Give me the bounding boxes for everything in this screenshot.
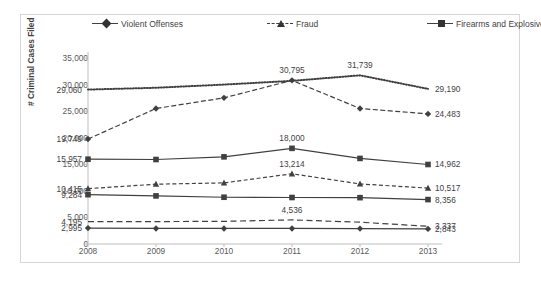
data-point-square (425, 197, 431, 203)
data-point-square (289, 195, 295, 201)
data-point-diamond (85, 225, 91, 231)
data-label: 29,190 (435, 84, 460, 94)
data-point-diamond (357, 105, 363, 111)
data-point-diamond (85, 136, 91, 142)
data-point-square (153, 157, 159, 163)
data-point-square (153, 193, 159, 199)
data-point-diamond (357, 225, 363, 231)
data-point-square (85, 192, 91, 198)
data-point-diamond (221, 95, 227, 101)
data-label: 19,749 (57, 134, 82, 144)
data-label: 4,195 (61, 217, 82, 227)
data-point-square (221, 154, 227, 160)
series-line-property-offenses (88, 148, 428, 164)
data-point-diamond (425, 111, 431, 117)
data-point-square (289, 146, 295, 152)
data-label: 18,000 (279, 133, 304, 143)
data-label: 30,795 (279, 65, 304, 75)
data-label: 8,356 (435, 195, 456, 205)
data-label: 3,337 (435, 221, 456, 231)
data-point-triangle (289, 170, 295, 176)
data-point-square (357, 195, 363, 201)
data-label: 31,739 (347, 60, 372, 70)
data-label: 4,536 (282, 205, 303, 215)
data-label: 24,483 (435, 109, 460, 119)
data-point-diamond (289, 225, 295, 231)
series-line-drug-offenses (88, 75, 428, 89)
series-line-immigration-offenses-lower- (88, 220, 428, 226)
series-line-firearms-and-explosives-offenses (88, 195, 428, 200)
data-label: 29,060 (57, 85, 82, 95)
data-label: 10,517 (435, 183, 460, 193)
data-label: 13,214 (279, 159, 304, 169)
data-point-square (357, 156, 363, 162)
data-label: 14,962 (435, 159, 460, 169)
data-point-diamond (153, 105, 159, 111)
series-line-violent-offenses (88, 228, 428, 229)
data-point-square (425, 162, 431, 168)
data-point-square (221, 194, 227, 200)
data-label: 15,957 (57, 154, 82, 164)
data-point-diamond (153, 225, 159, 231)
series-line-fraud (88, 174, 428, 189)
data-label: 9,284 (61, 190, 82, 200)
data-point-square (85, 156, 91, 162)
data-point-diamond (221, 225, 227, 231)
data-point-diamond (289, 77, 295, 83)
